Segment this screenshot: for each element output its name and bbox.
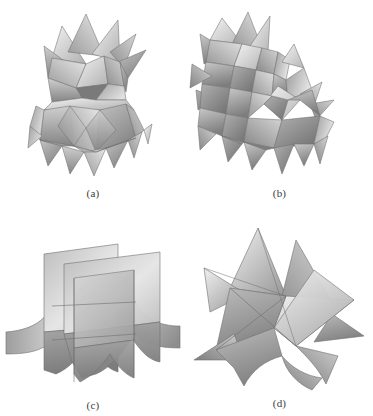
figure-panel-c: (c): [0, 208, 186, 416]
polyhedron-illustration-b: [186, 4, 373, 182]
panel-label-b: (b): [273, 188, 286, 199]
polyhedron-illustration-a: [0, 6, 186, 184]
panel-label-a: (a): [87, 188, 100, 199]
panel-label-d: (d): [273, 398, 286, 409]
figure-panel-grid: (a): [0, 0, 373, 416]
figure-panel-b: (b): [186, 0, 373, 208]
figure-panel-d: (d): [186, 208, 373, 416]
star-figure-illustration-d: [186, 218, 373, 396]
intersecting-planes-illustration-c: [0, 222, 186, 400]
panel-label-c: (c): [87, 400, 100, 411]
figure-panel-a: (a): [0, 0, 186, 208]
